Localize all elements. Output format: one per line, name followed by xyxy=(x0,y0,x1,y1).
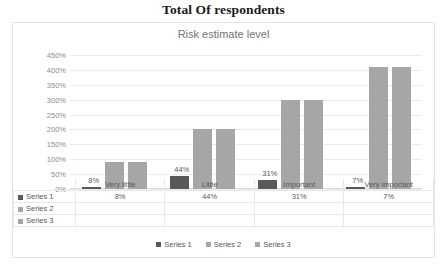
chart-frame: Risk estimate level 0%50%100%150%200%250… xyxy=(12,22,435,258)
legend-item-label: Series 3 xyxy=(263,240,291,249)
y-axis-tick-label: 450% xyxy=(47,51,66,60)
y-axis-tick-label: 250% xyxy=(47,110,66,119)
legend-swatch-icon xyxy=(18,195,23,200)
table-cell: 8% xyxy=(75,191,165,203)
bar-series-3[interactable] xyxy=(392,67,411,189)
table-column-header: Important xyxy=(254,179,344,191)
table-corner-cell xyxy=(14,179,76,191)
table-row-label: Series 3 xyxy=(26,216,54,225)
table-cell xyxy=(254,215,344,227)
y-axis-tick-label: 400% xyxy=(47,65,66,74)
bar-value-label: 31% xyxy=(262,169,277,178)
legend-item-label: Series 2 xyxy=(214,240,242,249)
y-axis-tick-label: 50% xyxy=(51,170,66,179)
bars xyxy=(334,55,422,189)
table-cell xyxy=(344,215,434,227)
bars xyxy=(246,55,334,189)
table-row: Series 18%44%31%7% xyxy=(14,191,434,203)
bars xyxy=(158,55,246,189)
table-cell xyxy=(75,215,165,227)
legend-swatch-icon xyxy=(18,219,23,224)
bar-series-2[interactable] xyxy=(281,100,300,189)
bar-series-2[interactable] xyxy=(369,67,388,189)
legend-item-1[interactable]: Series 1 xyxy=(156,240,192,249)
bar-groups: 8%44%31%7% xyxy=(70,55,422,189)
legend-item-3[interactable]: Series 3 xyxy=(255,240,291,249)
y-axis-tick-label: 300% xyxy=(47,95,66,104)
y-axis-tick-label: 100% xyxy=(47,155,66,164)
legend-swatch-icon xyxy=(156,242,161,247)
legend-swatch-icon xyxy=(206,242,211,247)
y-axis-tick-label: 150% xyxy=(47,140,66,149)
table-row-label: Series 2 xyxy=(26,204,54,213)
table-column-header: Very little xyxy=(75,179,165,191)
bar-group: 44% xyxy=(158,55,246,189)
data-table: Very littleLittleImportantVery important… xyxy=(13,179,434,227)
legend-item-label: Series 1 xyxy=(164,240,192,249)
table-cell xyxy=(165,215,255,227)
table-cell xyxy=(344,203,434,215)
table-row: Series 3 xyxy=(14,215,434,227)
legend-swatch-icon xyxy=(18,207,23,212)
table-column-header: Very important xyxy=(344,179,434,191)
table-row-header: Series 1 xyxy=(14,191,76,203)
bar-group: 7% xyxy=(334,55,422,189)
chart-legend: Series 1Series 2Series 3 xyxy=(13,240,434,249)
bar-group: 31% xyxy=(246,55,334,189)
table-header-row: Very littleLittleImportantVery important xyxy=(14,179,434,191)
plot-area: 0%50%100%150%200%250%300%350%400%450% 8%… xyxy=(70,55,422,189)
table-row-header: Series 2 xyxy=(14,203,76,215)
chart-subtitle: Risk estimate level xyxy=(13,28,434,40)
y-axis-tick-label: 200% xyxy=(47,125,66,134)
table-row-header: Series 3 xyxy=(14,215,76,227)
y-axis-tick-label: 350% xyxy=(47,80,66,89)
table-cell: 31% xyxy=(254,191,344,203)
table-cell: 44% xyxy=(165,191,255,203)
legend-swatch-icon xyxy=(255,242,260,247)
page-title: Total Of respondents xyxy=(0,2,447,18)
bar-group: 8% xyxy=(70,55,158,189)
bar-series-3[interactable] xyxy=(304,100,323,189)
table-row: Series 2 xyxy=(14,203,434,215)
table-cell xyxy=(75,203,165,215)
table-row-label: Series 1 xyxy=(26,192,54,201)
bar-value-label: 44% xyxy=(174,165,189,174)
table-cell xyxy=(254,203,344,215)
table-cell xyxy=(165,203,255,215)
chart-root: Total Of respondents Risk estimate level… xyxy=(0,0,447,264)
table-column-header: Little xyxy=(165,179,255,191)
bars xyxy=(70,55,158,189)
legend-item-2[interactable]: Series 2 xyxy=(206,240,242,249)
table-cell: 7% xyxy=(344,191,434,203)
